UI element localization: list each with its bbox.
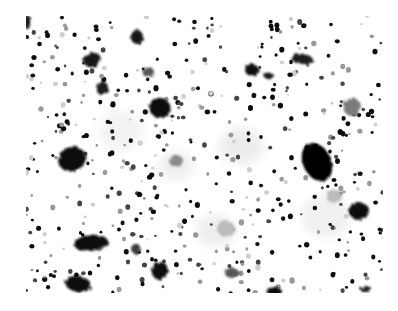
dark-blob [55,143,90,175]
dark-blob [131,30,143,44]
dark-blob [149,260,170,282]
dark-blob [96,81,108,95]
dark-blob [291,53,314,65]
dark-blob [64,274,92,293]
dark-blob [217,221,235,237]
dark-blob [81,50,103,69]
speckle-image [26,16,383,293]
dark-blob [349,202,369,220]
dark-blob [225,268,239,278]
dark-blob [142,67,154,77]
dark-blob [245,64,259,76]
speckle-graphic [26,16,383,293]
dark-blob [326,189,342,203]
dark-blob [343,98,361,116]
faint-cloud [99,111,143,151]
dark-blob [263,72,276,80]
dark-blob [145,94,174,122]
dark-blob [296,138,338,186]
dark-blob [169,155,183,167]
dark-blob [360,286,372,292]
dark-blob [26,16,31,29]
faint-cloud [219,128,263,164]
dark-blob [131,244,141,254]
